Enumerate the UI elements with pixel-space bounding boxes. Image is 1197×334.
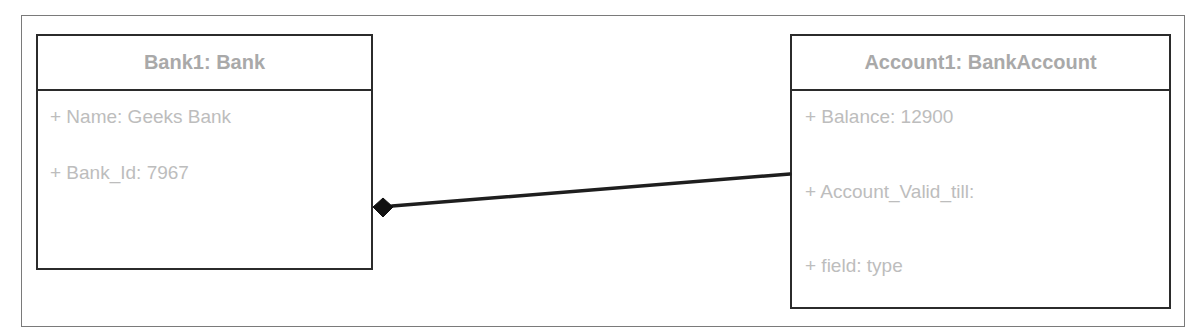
- attribute-field-type: + field: type: [805, 255, 903, 277]
- object-title-bank1: Bank1: Bank: [38, 36, 371, 91]
- attribute-bank-id: + Bank_Id: 7967: [50, 162, 189, 184]
- object-box-bank1[interactable]: Bank1: Bank + Name: Geeks Bank + Bank_Id…: [36, 34, 373, 270]
- object-title-account1: Account1: BankAccount: [792, 36, 1169, 91]
- attribute-account-valid-till: + Account_Valid_till:: [805, 181, 974, 203]
- attribute-balance: + Balance: 12900: [805, 106, 953, 128]
- object-box-account1[interactable]: Account1: BankAccount + Balance: 12900 +…: [790, 34, 1171, 309]
- attribute-name: + Name: Geeks Bank: [50, 106, 231, 128]
